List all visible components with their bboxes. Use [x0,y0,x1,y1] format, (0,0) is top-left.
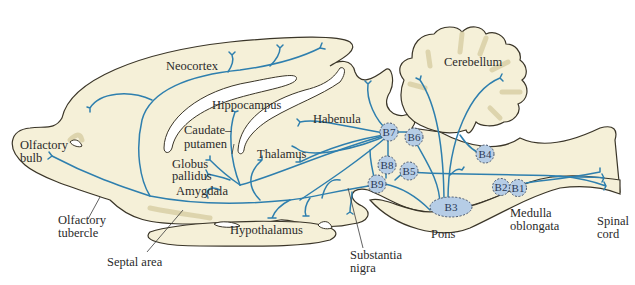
nucleus-b9: B9 [368,175,386,193]
nucleus-b8: B8 [378,156,396,174]
svg-text:B2: B2 [495,181,508,193]
label-pons: Pons [431,227,455,241]
nucleus-b3: B3 [430,197,472,217]
label-amygdala: Amygdala [176,184,229,198]
label-septal-area: Septal area [107,255,163,269]
svg-text:B9: B9 [371,178,384,190]
nucleus-b1: B1 [510,180,527,197]
label-thalamus: Thalamus [257,147,306,161]
label-cerebellum: Cerebellum [444,55,503,69]
label-globus-pallidus-2: pallidus [172,169,212,183]
nucleus-b5: B5 [400,162,418,180]
label-olfactory-tubercle-2: tubercle [58,226,99,240]
label-substantia-nigra-2: nigra [350,261,376,275]
label-hippocampus: Hippocampus [212,98,282,112]
label-neocortex: Neocortex [166,59,219,73]
nucleus-b2: B2 [493,179,510,196]
label-caudate-putamen-1: Caudate– [184,123,232,137]
label-hypothalamus: Hypothalamus [230,223,303,237]
label-medulla-oblongata-1: Medulla [510,206,552,220]
svg-text:B8: B8 [381,159,394,171]
label-medulla-oblongata-2: oblongata [510,219,560,233]
nucleus-b6: B6 [405,128,423,146]
label-substantia-nigra-1: Substantia [350,248,403,262]
label-olfactory-tubercle-1: Olfactory [58,213,107,227]
label-spinal-cord-1: Spinal [597,214,629,228]
brain-sagittal-diagram: B7 B6 B8 B5 B9 B4 B3 B2 [0,0,635,285]
nucleus-b4: B4 [476,145,494,163]
svg-text:B4: B4 [479,148,492,160]
svg-text:B6: B6 [408,131,421,143]
svg-text:B5: B5 [403,165,416,177]
svg-text:B7: B7 [383,126,396,138]
svg-text:B1: B1 [512,182,525,194]
label-habenula: Habenula [313,112,361,126]
label-caudate-putamen-2: putamen [184,137,228,151]
nucleus-b7: B7 [380,123,398,141]
label-spinal-cord-2: cord [597,227,620,241]
label-olfactory-bulb-2: bulb [20,151,42,165]
svg-text:B3: B3 [445,201,458,213]
label-olfactory-bulb-1: Olfactory [20,138,69,152]
